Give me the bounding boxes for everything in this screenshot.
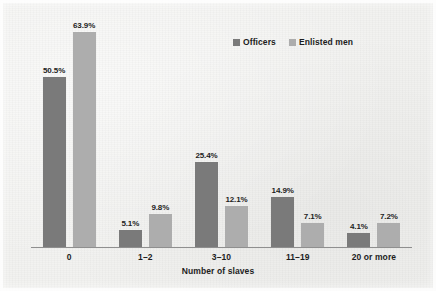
x-tick-label: 3–10 (183, 252, 259, 262)
chart-figure: Officers Enlisted men 50.5% 63.9% 5.1 (0, 0, 436, 291)
x-tick-label: 0 (31, 252, 107, 262)
x-axis-tick-labels: 0 1–2 3–10 11–19 20 or more (31, 252, 412, 262)
bar-enlisted-men[interactable] (149, 214, 172, 247)
x-tick-label: 11–19 (260, 252, 336, 262)
bar-officers[interactable] (119, 230, 142, 247)
bar-enlisted-men[interactable] (73, 32, 96, 247)
bar-value-label: 7.2% (380, 211, 398, 222)
bar-slot: 25.4% (195, 12, 218, 247)
bar-group: 4.1% 7.2% (336, 12, 412, 247)
bar-slot: 7.2% (377, 12, 400, 247)
bar-enlisted-men[interactable] (377, 223, 400, 247)
bar-value-label: 4.1% (350, 221, 368, 232)
bar-slot: 14.9% (271, 12, 294, 247)
x-tick-label: 1–2 (107, 252, 183, 262)
bar-slot: 7.1% (301, 12, 324, 247)
bar-enlisted-men[interactable] (301, 223, 324, 247)
x-tick-label: 20 or more (336, 252, 412, 262)
bar-slot: 9.8% (149, 12, 172, 247)
bar-value-label: 50.5% (43, 65, 65, 76)
bar-officers[interactable] (347, 233, 370, 247)
bar-group: 14.9% 7.1% (260, 12, 336, 247)
bar-officers[interactable] (271, 197, 294, 247)
bar-group: 50.5% 63.9% (31, 12, 107, 247)
bar-slot: 63.9% (73, 12, 96, 247)
bar-value-label: 63.9% (73, 20, 95, 31)
bar-slot: 12.1% (225, 12, 248, 247)
x-axis-line (31, 247, 412, 248)
bar-slot: 4.1% (347, 12, 370, 247)
bar-value-label: 9.8% (151, 202, 169, 213)
bar-slot: 5.1% (119, 12, 142, 247)
bar-value-label: 14.9% (272, 185, 294, 196)
bar-slot: 50.5% (43, 12, 66, 247)
bar-value-label: 7.1% (304, 211, 322, 222)
bar-groups: 50.5% 63.9% 5.1% 9.8% (31, 12, 412, 247)
bar-group: 25.4% 12.1% (183, 12, 259, 247)
bar-value-label: 5.1% (121, 218, 139, 229)
bar-officers[interactable] (43, 77, 66, 247)
x-axis-title: Number of slaves (0, 266, 436, 276)
bar-enlisted-men[interactable] (225, 206, 248, 247)
plot-area: 50.5% 63.9% 5.1% 9.8% (31, 12, 412, 248)
bar-value-label: 25.4% (195, 150, 217, 161)
bar-value-label: 12.1% (225, 194, 247, 205)
bar-officers[interactable] (195, 162, 218, 247)
bar-group: 5.1% 9.8% (107, 12, 183, 247)
